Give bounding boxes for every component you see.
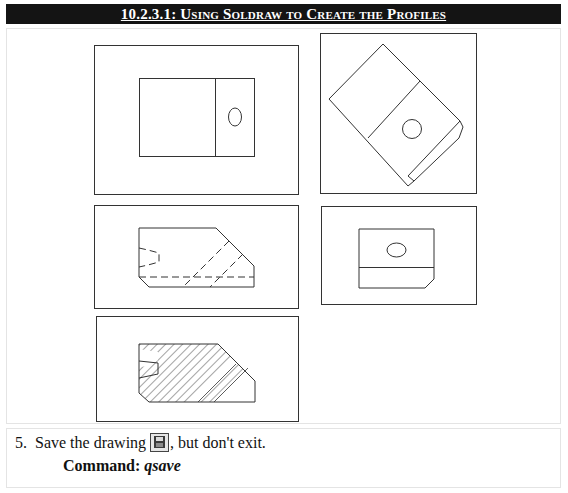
step-text-after: , but don't exit. [170, 434, 266, 452]
top-view-outline [140, 79, 255, 157]
top-view-frame [95, 46, 299, 195]
command-value: qsave [144, 457, 180, 474]
side-view [322, 207, 477, 305]
front-view-hidden-slot [139, 248, 159, 267]
auxiliary-view [321, 34, 477, 194]
side-view-frame [322, 207, 477, 305]
front-view [95, 206, 299, 309]
top-view-hole [229, 108, 242, 126]
step-instruction: 5. Save the drawing , but don't exit. [15, 433, 266, 452]
section-view [97, 317, 340, 422]
step-number: 5. [15, 434, 27, 452]
auxiliary-view-divider [368, 81, 420, 138]
side-view-outline [359, 229, 434, 288]
top-view [95, 46, 299, 195]
front-view-hidden-diagonal [210, 254, 243, 287]
side-view-hole [387, 243, 406, 257]
front-view-outline [139, 228, 254, 287]
front-view-hidden-diagonal [183, 241, 229, 287]
front-view-frame [95, 206, 299, 309]
save-icon [150, 433, 169, 452]
command-line: Command: qsave [63, 457, 181, 475]
drawing-figure [0, 0, 568, 493]
auxiliary-view-outline [329, 44, 463, 186]
command-label: Command: [63, 457, 144, 474]
auxiliary-view-chamfer-line [408, 121, 460, 176]
auxiliary-view-hole [403, 120, 422, 139]
step-text: Save the drawing [35, 434, 146, 452]
